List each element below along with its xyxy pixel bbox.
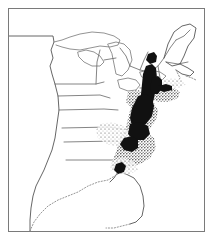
map-canvas	[0, 0, 218, 242]
gulf-coast-dotted	[30, 174, 130, 231]
florida-outline	[110, 172, 144, 224]
species-range-figure: Core range (solid shading) Peripheral ra…	[0, 0, 218, 242]
country-outline	[9, 36, 59, 231]
